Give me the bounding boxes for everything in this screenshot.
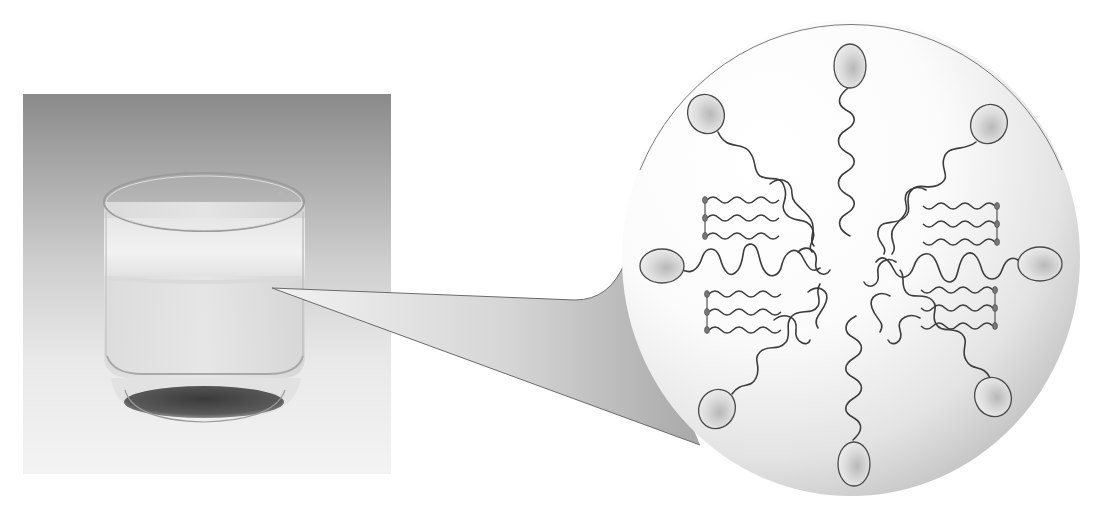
head-group-right	[1018, 247, 1062, 281]
micelle-diagram	[0, 0, 1105, 517]
head-group-top	[834, 44, 866, 88]
cropped-caption	[830, 508, 1105, 517]
figure	[0, 0, 1105, 517]
head-group-bottom	[838, 442, 870, 486]
head-group-left	[640, 249, 684, 283]
